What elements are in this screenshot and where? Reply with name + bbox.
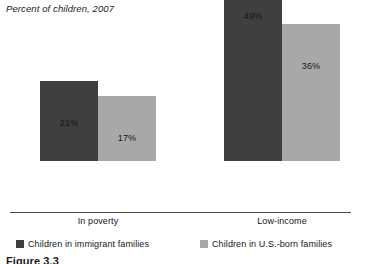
legend-label-usborn-families: Children in U.S.-born families bbox=[212, 239, 332, 249]
legend-item-usborn-families[interactable]: Children in U.S.-born families bbox=[200, 238, 332, 250]
x-axis-label-in-poverty: In poverty bbox=[58, 216, 138, 226]
bar-value-low-income-immigrant: 49% bbox=[224, 11, 282, 21]
bar-value-in-poverty-immigrant: 21% bbox=[40, 118, 98, 128]
bar-value-in-poverty-usborn: 17% bbox=[98, 133, 156, 143]
plot-area: 21% 17% 49% 36% bbox=[0, 0, 368, 213]
legend-swatch-icon-immigrant bbox=[16, 240, 24, 248]
bar-low-income-usborn[interactable] bbox=[282, 24, 340, 161]
legend-swatch-icon-usborn bbox=[200, 240, 208, 248]
bar-low-income-immigrant[interactable] bbox=[224, 0, 282, 161]
chart-legend: Children in immigrant families Children … bbox=[0, 238, 368, 252]
x-axis-label-low-income: Low-income bbox=[242, 216, 322, 226]
bar-chart: Percent of children, 2007 21% 17% 49% 36… bbox=[0, 0, 368, 264]
bar-in-poverty-usborn[interactable] bbox=[98, 96, 156, 161]
legend-label-immigrant-families: Children in immigrant families bbox=[28, 239, 149, 249]
x-axis-line bbox=[10, 212, 351, 213]
legend-item-immigrant-families[interactable]: Children in immigrant families bbox=[16, 238, 149, 250]
figure-caption: Figure 3.3 bbox=[6, 255, 59, 264]
bar-value-low-income-usborn: 36% bbox=[282, 61, 340, 71]
